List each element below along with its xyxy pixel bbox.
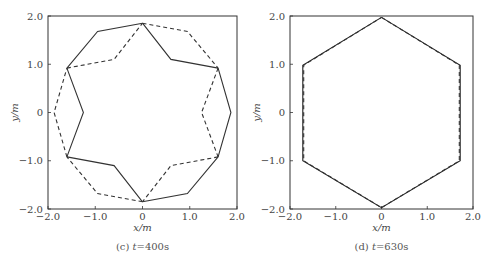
y-tick-label: −2.0: [261, 204, 285, 215]
y-tick-label: 1.0: [269, 59, 285, 70]
panel-caption: (c) t=400s: [116, 241, 169, 252]
y-axis-label: y/m: [251, 103, 262, 123]
plot-frame: [290, 16, 473, 209]
x-tick-label: −1.0: [83, 211, 107, 222]
y-tick-label: −1.0: [19, 155, 43, 166]
panel-caption: (d) t=630s: [354, 241, 408, 252]
x-tick-label: 0: [139, 211, 145, 222]
y-tick-label: −2.0: [19, 204, 43, 215]
x-tick-label: 2.0: [229, 211, 245, 222]
x-axis-label: x/m: [372, 222, 391, 233]
y-axis-label: y/m: [9, 103, 20, 123]
x-tick-label: −1.0: [324, 211, 348, 222]
x-tick-label: 0: [378, 211, 384, 222]
series-solid: [67, 23, 231, 202]
chart-panel-c: −2.0−2.0−1.0−1.0001.01.02.02.0x/my/m(c) …: [9, 11, 245, 253]
y-tick-label: 1.0: [27, 59, 43, 70]
x-tick-label: 1.0: [419, 211, 435, 222]
y-tick-label: 2.0: [269, 11, 285, 22]
x-axis-label: x/m: [133, 222, 152, 233]
series-dashed: [54, 23, 218, 202]
y-tick-label: 0: [37, 107, 43, 118]
x-tick-label: 2.0: [465, 211, 481, 222]
y-tick-label: 2.0: [27, 11, 43, 22]
chart-panel-d: −2.0−2.0−1.0−1.0001.01.02.02.0x/my/m(d) …: [251, 11, 481, 253]
x-tick-label: 1.0: [182, 211, 198, 222]
figure: −2.0−2.0−1.0−1.0001.01.02.02.0x/my/m(c) …: [0, 0, 489, 270]
y-tick-label: −1.0: [261, 155, 285, 166]
y-tick-label: 0: [279, 107, 285, 118]
series-solid: [303, 17, 460, 207]
plot-frame: [48, 16, 237, 209]
series-dashed: [304, 17, 460, 207]
